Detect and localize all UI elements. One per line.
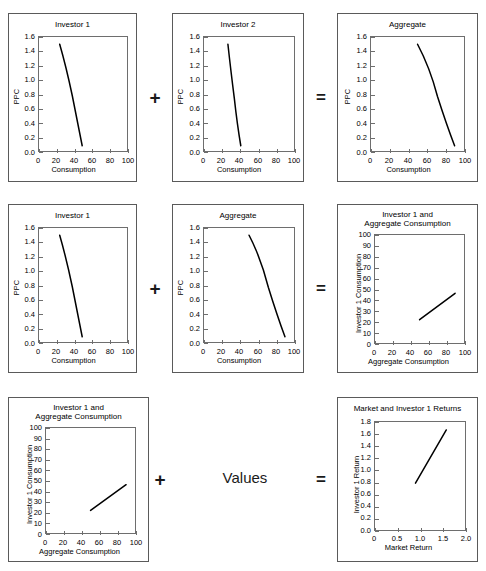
y-tick: 0.6 bbox=[178, 104, 200, 113]
x-tickmark bbox=[259, 149, 260, 153]
y-tick: 1.4 bbox=[349, 441, 371, 450]
x-tickmark bbox=[446, 149, 447, 153]
y-tick: 60 bbox=[17, 466, 42, 475]
x-tick: 1.0 bbox=[411, 534, 429, 543]
chart-title: Investor 1 and Aggregate Consumption bbox=[9, 403, 148, 421]
x-tickmark bbox=[82, 531, 83, 535]
y-tick: 1.2 bbox=[178, 252, 200, 261]
y-tickmark bbox=[204, 257, 208, 258]
y-tickmark bbox=[375, 268, 379, 269]
plot-area bbox=[203, 36, 295, 152]
consumption-line-svg bbox=[375, 235, 466, 345]
y-tick: 10 bbox=[346, 329, 371, 338]
y-tick: 100 bbox=[17, 423, 42, 432]
plot-area bbox=[38, 36, 128, 152]
x-tick: 40 bbox=[66, 156, 82, 165]
y-tick: 0.6 bbox=[13, 104, 35, 113]
y-tickmark bbox=[39, 257, 43, 258]
x-tick: 0 bbox=[30, 347, 46, 356]
y-tickmark bbox=[46, 449, 50, 450]
x-tick: 0 bbox=[30, 156, 46, 165]
values-label: Values bbox=[190, 469, 300, 486]
x-tickmark bbox=[118, 531, 119, 535]
x-tick: 1.5 bbox=[434, 534, 452, 543]
y-tickmark bbox=[46, 492, 50, 493]
y-tickmark bbox=[371, 37, 375, 38]
y-tick: 1.6 bbox=[13, 223, 35, 232]
x-tickmark bbox=[92, 149, 93, 153]
y-tickmark bbox=[39, 37, 43, 38]
y-tickmark bbox=[46, 534, 50, 535]
y-tickmark bbox=[39, 228, 43, 229]
x-tickmark bbox=[128, 340, 129, 344]
y-tick: 0.4 bbox=[349, 501, 371, 510]
x-tick: 20 bbox=[48, 156, 64, 165]
y-tick: 1.8 bbox=[349, 417, 371, 426]
y-tickmark bbox=[39, 242, 43, 243]
y-tickmark bbox=[375, 322, 379, 323]
x-tick: 60 bbox=[84, 156, 100, 165]
y-tickmark bbox=[204, 37, 208, 38]
x-tick: 100 bbox=[285, 156, 303, 165]
y-tick: 0.2 bbox=[178, 324, 200, 333]
x-tick: 0 bbox=[195, 156, 211, 165]
x-tick: 0 bbox=[362, 156, 378, 165]
x-tick: 20 bbox=[213, 156, 229, 165]
y-tick: 20 bbox=[17, 508, 42, 517]
x-tick: 40 bbox=[231, 156, 247, 165]
x-tick: 0 bbox=[366, 348, 382, 357]
x-tickmark bbox=[411, 341, 412, 345]
x-tickmark bbox=[465, 149, 466, 153]
x-tickmark bbox=[390, 149, 391, 153]
y-tickmark bbox=[375, 279, 379, 280]
plot-area bbox=[370, 36, 465, 152]
x-axis-label: Market Return bbox=[338, 543, 479, 552]
y-tickmark bbox=[39, 314, 43, 315]
x-tick: 40 bbox=[402, 348, 418, 357]
y-tick: 0.8 bbox=[349, 477, 371, 486]
y-tickmark bbox=[204, 80, 208, 81]
x-tickmark bbox=[222, 340, 223, 344]
x-tickmark bbox=[443, 528, 444, 532]
y-tick: 90 bbox=[346, 241, 371, 250]
x-axis-label: Consumption bbox=[173, 356, 305, 365]
y-tickmark bbox=[204, 95, 208, 96]
x-tick: 80 bbox=[438, 348, 454, 357]
x-tickmark bbox=[57, 149, 58, 153]
x-tickmark bbox=[240, 149, 241, 153]
ppc-curve-svg bbox=[204, 37, 296, 153]
y-tickmark bbox=[204, 286, 208, 287]
y-tickmark bbox=[39, 66, 43, 67]
y-tickmark bbox=[204, 109, 208, 110]
y-tickmark bbox=[204, 228, 208, 229]
y-tickmark bbox=[371, 138, 375, 139]
x-tickmark bbox=[295, 340, 296, 344]
plot-area bbox=[203, 227, 295, 343]
y-tick: 1.0 bbox=[178, 75, 200, 84]
y-tick: 50 bbox=[17, 476, 42, 485]
y-tick: 1.2 bbox=[349, 453, 371, 462]
y-tickmark bbox=[204, 242, 208, 243]
y-tick: 0.6 bbox=[178, 295, 200, 304]
y-tick: 70 bbox=[17, 455, 42, 464]
x-tickmark bbox=[421, 528, 422, 532]
x-tick: 40 bbox=[73, 538, 89, 547]
y-tickmark bbox=[375, 235, 379, 236]
y-tickmark bbox=[204, 271, 208, 272]
y-tick: 1.0 bbox=[13, 266, 35, 275]
x-tick: 20 bbox=[213, 347, 229, 356]
consumption-line-svg bbox=[46, 428, 137, 535]
y-tick: 1.4 bbox=[344, 46, 367, 55]
x-tick: 80 bbox=[268, 156, 284, 165]
y-tickmark bbox=[204, 300, 208, 301]
y-tickmark bbox=[46, 439, 50, 440]
y-tick: 30 bbox=[346, 307, 371, 316]
y-tick: 60 bbox=[346, 274, 371, 283]
y-tick: 80 bbox=[17, 444, 42, 453]
y-tick: 0.8 bbox=[13, 90, 35, 99]
operator-equals: = bbox=[311, 471, 331, 488]
chart-title: Investor 2 bbox=[173, 20, 303, 29]
panel-market-vs-investor1-returns: Market and Investor 1 Returns Investor 1… bbox=[337, 397, 478, 562]
panel-investor2-row1: Investor 2 PPC 1.6 1.4 1.2 1.0 0.8 0.6 0… bbox=[172, 13, 304, 182]
x-tick: 100 bbox=[285, 347, 303, 356]
